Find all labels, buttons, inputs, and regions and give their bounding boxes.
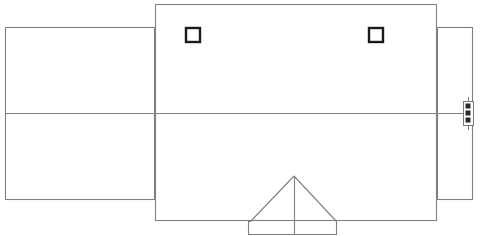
window-left [186,28,200,42]
fixture-slot-1 [466,104,471,109]
window-right [369,28,383,42]
right-edge-fixture [464,97,474,130]
fixture-slot-2 [466,111,471,116]
porch-gable-right-slope [294,176,337,222]
window-left-frame [186,28,200,42]
architectural-drawing-canvas [0,0,480,236]
porch-gable-left-slope [251,176,295,222]
fixture-slot-3 [466,118,471,123]
plan-svg [0,0,480,236]
window-right-frame [369,28,383,42]
